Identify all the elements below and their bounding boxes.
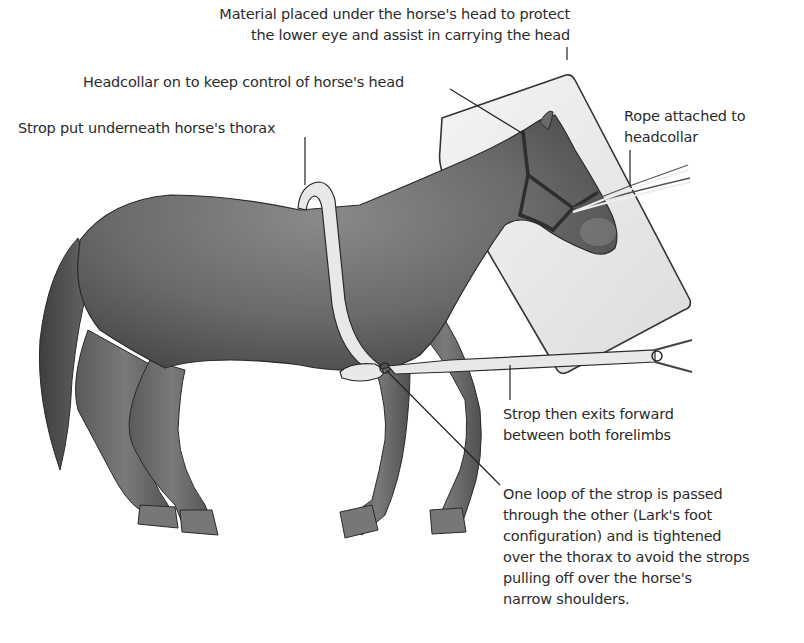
- annotation-larks-foot-line-4: over the thorax to avoid the strops: [503, 547, 749, 568]
- annotation-head-pad-line-1: Material placed under the horse's head t…: [150, 4, 570, 25]
- annotation-strop-under-thorax-line-1: Strop put underneath horse's thorax: [18, 118, 275, 139]
- annotation-rope-line-1: Rope attached to: [624, 106, 745, 127]
- annotation-larks-foot-line-1: One loop of the strop is passed: [503, 484, 749, 505]
- annotation-head-pad-line-2: the lower eye and assist in carrying the…: [150, 25, 570, 46]
- annotation-larks-foot: One loop of the strop is passed through …: [503, 484, 749, 610]
- annotation-larks-foot-line-2: through the other (Lark's foot: [503, 505, 749, 526]
- annotation-head-pad: Material placed under the horse's head t…: [150, 4, 570, 46]
- annotation-strop-exit: Strop then exits forward between both fo…: [503, 404, 674, 446]
- annotation-larks-foot-line-3: configuration) and is tightened: [503, 526, 749, 547]
- annotation-strop-under-thorax: Strop put underneath horse's thorax: [18, 118, 275, 139]
- annotation-strop-exit-line-2: between both forelimbs: [503, 425, 674, 446]
- annotation-larks-foot-line-5: pulling off over the horse's: [503, 568, 749, 589]
- annotation-headcollar-line-1: Headcollar on to keep control of horse's…: [83, 72, 404, 93]
- annotation-rope: Rope attached to headcollar: [624, 106, 745, 148]
- annotation-rope-line-2: headcollar: [624, 127, 745, 148]
- annotation-strop-exit-line-1: Strop then exits forward: [503, 404, 674, 425]
- annotation-larks-foot-line-6: narrow shoulders.: [503, 589, 749, 610]
- annotation-headcollar: Headcollar on to keep control of horse's…: [83, 72, 404, 93]
